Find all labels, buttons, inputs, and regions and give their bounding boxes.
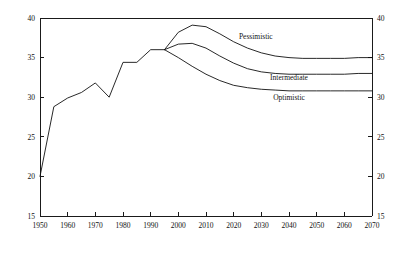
x-axis-tick-label: 2040 <box>282 221 297 230</box>
y-axis-left-tick-label: 40 <box>28 14 36 23</box>
x-axis-tick-label: 1990 <box>143 221 158 230</box>
y-axis-left-tick-label: 30 <box>28 93 36 102</box>
x-axis-tick-label: 2010 <box>199 221 214 230</box>
x-axis-tick-label: 2020 <box>226 221 241 230</box>
series-annotations: PessimisticIntermediateOptimistic <box>239 32 309 102</box>
y-axis-right-tick-label: 25 <box>377 133 385 142</box>
chart-container: 152025303540 152025303540 19501960197019… <box>0 0 399 266</box>
line-chart: 152025303540 152025303540 19501960197019… <box>0 0 399 266</box>
x-axis-tick-label: 1970 <box>88 221 103 230</box>
y-axis-left-tick-label: 20 <box>28 172 36 181</box>
x-axis-tick-label: 2050 <box>309 221 324 230</box>
x-axis-tick-label: 2060 <box>337 221 352 230</box>
y-axis-left-tick-label: 35 <box>28 53 36 62</box>
y-axis-right-tick-label: 15 <box>377 212 385 221</box>
y-axis-right-tick-label: 40 <box>377 14 385 23</box>
y-axis-left-tick-label: 25 <box>28 133 36 142</box>
series-label-pessimistic: Pessimistic <box>239 32 273 41</box>
series-line-pessimistic <box>165 25 373 58</box>
series-lines <box>40 25 372 176</box>
x-axis-tick-label: 2000 <box>171 221 186 230</box>
y-axis-left-tick-label: 15 <box>28 212 36 221</box>
x-axis-tick-label: 1960 <box>60 221 75 230</box>
y-axis-right-tick-label: 30 <box>377 93 385 102</box>
x-axis-tick-label: 1980 <box>116 221 131 230</box>
y-axis-right-tick-label: 20 <box>377 172 385 181</box>
x-axis-tick-label: 2070 <box>365 221 380 230</box>
x-axis-ticks: 1950196019701980199020002010202020302040… <box>33 212 380 230</box>
y-axis-right-tick-label: 35 <box>377 53 385 62</box>
series-line-optimistic <box>165 50 373 91</box>
series-label-intermediate: Intermediate <box>270 73 309 82</box>
series-line-historical <box>40 50 165 177</box>
x-axis-tick-label: 1950 <box>33 221 48 230</box>
y-axis-left-ticks: 152025303540 <box>28 14 45 221</box>
x-axis-tick-label: 2030 <box>254 221 269 230</box>
series-label-optimistic: Optimistic <box>273 93 305 102</box>
y-axis-right-ticks: 152025303540 <box>368 14 385 221</box>
